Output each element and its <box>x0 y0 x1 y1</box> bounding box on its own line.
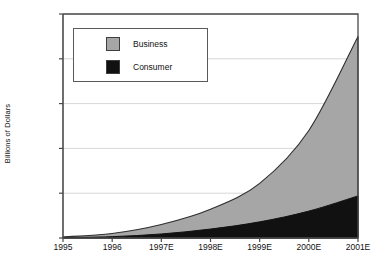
legend-label-business: Business <box>133 39 168 49</box>
legend-item-consumer: Consumer <box>106 60 172 74</box>
legend-label-consumer: Consumer <box>133 62 172 72</box>
x-tick-label: 1996 <box>103 242 122 252</box>
x-tick-label: 1998E <box>198 242 223 252</box>
x-tick-label: 2001E <box>346 242 371 252</box>
y-axis-title: Billions of Dollars <box>0 0 14 267</box>
stacked-area-chart: 05,00010,00015,00020,00025,000 199519961… <box>0 0 375 267</box>
legend-swatch-consumer <box>106 60 120 74</box>
x-tick-label: 1995 <box>54 242 73 252</box>
chart-legend: Business Consumer <box>73 28 208 82</box>
legend-item-business: Business <box>106 37 168 51</box>
x-tick-label: 1999E <box>247 242 272 252</box>
x-tick-label: 1997E <box>149 242 174 252</box>
legend-swatch-business <box>106 37 120 51</box>
x-tick-label: 2000E <box>297 242 322 252</box>
